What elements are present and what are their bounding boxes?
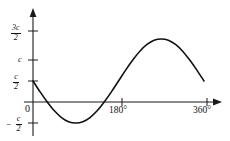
x-axis-label-180: 180° bbox=[109, 106, 127, 116]
fraction-c-over-2: c 2 bbox=[16, 115, 22, 133]
sine-curve-figure: 3c 2 c c 2 − c 2 0 180° 360° bbox=[0, 0, 230, 141]
y-axis-label-negative-c-over-2: − c 2 bbox=[6, 115, 22, 133]
y-axis-label-c: c bbox=[18, 55, 22, 64]
fraction-3c-over-2: 3c 2 bbox=[11, 24, 21, 42]
x-axis-label-360: 360° bbox=[193, 106, 211, 116]
x-axis-arrow-right-icon bbox=[213, 99, 222, 106]
origin-label: 0 bbox=[25, 104, 30, 114]
y-axis-label-c-over-2: c 2 bbox=[13, 73, 19, 91]
y-axis-label-3c-over-2: 3c 2 bbox=[11, 24, 21, 42]
minus-sign: − bbox=[6, 120, 11, 129]
fraction-denominator: 2 bbox=[11, 34, 21, 42]
fraction-c-over-2: c 2 bbox=[13, 73, 19, 91]
y-axis-arrow-up-icon bbox=[30, 8, 37, 17]
fraction-denominator: 2 bbox=[16, 125, 22, 133]
plot-canvas bbox=[0, 0, 230, 141]
fraction-denominator: 2 bbox=[13, 83, 19, 91]
